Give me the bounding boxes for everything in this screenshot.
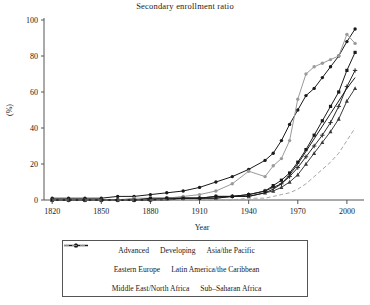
x-tick-label: 1940: [241, 207, 257, 216]
legend-item-advanced[interactable]: Advanced: [115, 246, 149, 255]
legend-label: Latin America/the Caribbean: [171, 265, 259, 274]
legend-item-middle-east-north-africa[interactable]: Middle East/North Africa: [109, 284, 190, 293]
legend-label: Sub–Saharan Africa: [200, 284, 261, 293]
legend-row: Eastern EuropeLatin America/the Caribbea…: [63, 260, 307, 279]
x-tick-label: 1910: [192, 207, 208, 216]
legend-label: Advanced: [118, 246, 149, 255]
x-tick-label: 1880: [142, 207, 158, 216]
series-line: [52, 128, 355, 200]
chart-legend: AdvancedDevelopingAsia/the PacificEaster…: [62, 240, 308, 297]
legend-item-asia-the-pacific[interactable]: Asia/the Pacific: [203, 246, 254, 255]
chart-plot-area: 0204060801001820185018801910194019702000…: [0, 0, 370, 240]
series-line: [50, 27, 356, 200]
x-tick-label: 1850: [93, 207, 109, 216]
x-axis-label: Year: [195, 223, 210, 232]
legend-item-sub-saharan-africa[interactable]: Sub–Saharan Africa: [197, 284, 261, 293]
x-tick-label: 2000: [339, 207, 355, 216]
y-axis-label: (%): [5, 104, 14, 116]
y-tick-label: 60: [30, 88, 38, 97]
y-tick-label: 40: [30, 124, 38, 133]
chart-container: Secondary enrollment ratio 0204060801001…: [0, 0, 370, 305]
x-tick-label: 1820: [44, 207, 60, 216]
series-line: [50, 68, 357, 202]
y-tick-label: 100: [26, 16, 38, 25]
legend-row: AdvancedDevelopingAsia/the Pacific: [63, 241, 307, 260]
legend-label: Middle East/North Africa: [112, 284, 190, 293]
legend-item-developing[interactable]: Developing: [157, 246, 195, 255]
y-tick-label: 20: [30, 160, 38, 169]
legend-item-eastern-europe[interactable]: Eastern Europe: [111, 265, 161, 274]
legend-label: Asia/the Pacific: [206, 246, 254, 255]
legend-label: Eastern Europe: [114, 265, 161, 274]
series-line: [52, 78, 355, 200]
y-tick-label: 0: [34, 196, 38, 205]
series-line: [50, 33, 356, 202]
legend-row: Middle East/North AfricaSub–Saharan Afri…: [63, 279, 307, 298]
legend-item-latin-america-the-caribbean[interactable]: Latin America/the Caribbean: [168, 265, 259, 274]
x-tick-label: 1970: [290, 207, 306, 216]
y-tick-label: 80: [30, 52, 38, 61]
legend-label: Developing: [160, 246, 195, 255]
legend-key-dashed-line: [63, 241, 89, 250]
